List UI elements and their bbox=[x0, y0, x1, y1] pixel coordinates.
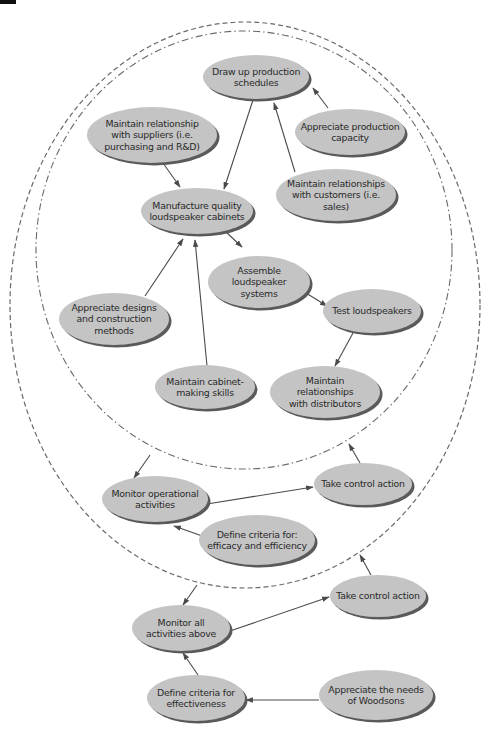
node-label-line: with suppliers (i.e. bbox=[111, 129, 192, 140]
arrow-n3-to-n1 bbox=[313, 88, 328, 108]
node-label-line: Maintain cabinet- bbox=[166, 376, 243, 387]
node-label-line: Define criteria for: bbox=[217, 529, 298, 540]
node-n7: Appreciate designsand constructionmethod… bbox=[59, 293, 172, 348]
arrow-n7-to-n5 bbox=[145, 239, 183, 296]
node-label-line: relationships bbox=[297, 386, 354, 397]
node-n3: Appreciate productioncapacity bbox=[295, 109, 408, 158]
node-n14: Take control action bbox=[330, 575, 429, 620]
node-label-line: Maintain bbox=[306, 375, 345, 386]
node-label-line: efficacy and efficiency bbox=[207, 540, 307, 551]
arrow-monitoring-system-to-n15 bbox=[183, 585, 197, 605]
arrow-n16-to-n15 bbox=[183, 653, 198, 675]
node-label-line: Monitor all bbox=[158, 617, 205, 628]
arrow-n11-to-n12 bbox=[207, 487, 313, 504]
arrow-n1-to-n5 bbox=[224, 100, 253, 189]
arrow-n8-to-n10 bbox=[335, 333, 353, 366]
node-n17: Appreciate the needsof Woodsons bbox=[319, 670, 436, 723]
node-label-line: capacity bbox=[331, 132, 369, 143]
node-n11: Monitor operationalactivities bbox=[102, 476, 211, 525]
node-label-line: methods bbox=[94, 325, 134, 336]
node-label-line: Define criteria for bbox=[157, 687, 235, 698]
arrow-n4-to-n1 bbox=[274, 103, 295, 172]
node-label-line: making skills bbox=[176, 387, 234, 398]
arrow-n15-to-n14 bbox=[230, 597, 329, 631]
node-label-line: purchasing and R&D) bbox=[104, 141, 199, 152]
node-n9: Maintain cabinet-making skills bbox=[155, 365, 258, 412]
node-n2: Maintain relationshipwith suppliers (i.e… bbox=[87, 107, 220, 166]
arrow-n9-to-n5 bbox=[195, 240, 207, 366]
node-n4: Maintain relationshipswith customers (i.… bbox=[276, 169, 399, 224]
node-label-line: activities bbox=[135, 499, 175, 510]
node-label-line: Take control action bbox=[320, 478, 405, 489]
node-label-line: Manufacture quality bbox=[152, 200, 242, 211]
node-label-line: with customers (i.e. bbox=[292, 189, 380, 200]
arrow-n14-to-monitoring-system bbox=[360, 555, 371, 575]
node-label-line: Draw up production bbox=[212, 66, 300, 77]
node-label-line: Maintain relationship bbox=[105, 118, 198, 129]
node-label-line: and construction bbox=[77, 313, 152, 324]
node-label-line: sales) bbox=[323, 201, 349, 212]
arrow-n5-to-n6 bbox=[226, 232, 242, 247]
node-label-line: systems bbox=[240, 288, 277, 299]
node-label-line: Test loudspeakers bbox=[331, 305, 412, 316]
diagram-nodes: Draw up productionschedulesMaintain rela… bbox=[59, 55, 436, 724]
node-n10: Maintainrelationshipswith distributors bbox=[270, 366, 383, 421]
node-n12: Take control action bbox=[314, 463, 415, 508]
arrow-operational-system-to-n11 bbox=[134, 455, 150, 478]
node-label-line: loudspeaker bbox=[232, 276, 287, 287]
node-n13: Define criteria for:efficacy and efficie… bbox=[199, 515, 318, 568]
node-n6: Assembleloudspeakersystems bbox=[208, 256, 313, 311]
node-label-line: Appreciate production bbox=[301, 121, 400, 132]
node-label-line: with distributors bbox=[289, 398, 362, 409]
node-label-line: Appreciate designs bbox=[71, 302, 157, 313]
arrow-n12-to-operational-system bbox=[349, 444, 360, 463]
node-label-line: Take control action bbox=[335, 590, 420, 601]
node-label-line: Appreciate the needs bbox=[328, 684, 424, 695]
node-label-line: of Woodsons bbox=[348, 695, 405, 706]
node-label-line: effectiveness bbox=[166, 698, 225, 709]
node-label-line: activities above bbox=[146, 628, 216, 639]
node-label-line: Assemble bbox=[237, 265, 281, 276]
arrow-n6-to-n8 bbox=[306, 293, 327, 306]
node-label-line: loudspeaker cabinets bbox=[149, 211, 244, 222]
arrow-n2-to-n5 bbox=[163, 163, 180, 187]
activity-system-diagram: Draw up productionschedulesMaintain rela… bbox=[0, 0, 481, 731]
node-n1: Draw up productionschedules bbox=[203, 55, 312, 102]
node-label-line: Maintain relationships bbox=[287, 178, 385, 189]
node-n8: Test loudspeakers bbox=[323, 289, 424, 336]
node-n16: Define criteria foreffectiveness bbox=[147, 675, 248, 724]
node-label-line: Monitor operational bbox=[111, 488, 198, 499]
node-label-line: schedules bbox=[234, 77, 279, 88]
node-n5: Manufacture qualityloudspeaker cabinets bbox=[141, 188, 256, 237]
node-n15: Monitor allactivities above bbox=[132, 605, 233, 654]
